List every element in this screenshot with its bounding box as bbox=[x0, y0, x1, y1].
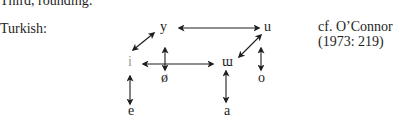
arrow-i-y bbox=[133, 33, 154, 50]
vowel-arrows-diagram bbox=[0, 0, 404, 121]
arrow-u-uu bbox=[239, 35, 261, 57]
